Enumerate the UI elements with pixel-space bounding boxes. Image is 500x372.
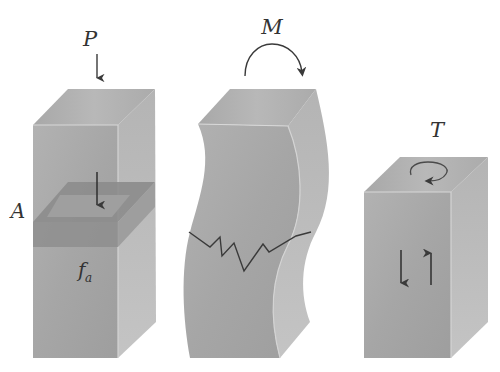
load-label-t: T bbox=[430, 118, 446, 142]
block-side-face bbox=[451, 157, 488, 358]
svg-text:a: a bbox=[85, 271, 92, 285]
torsion-panel: T bbox=[364, 118, 488, 358]
torsion-block bbox=[364, 157, 488, 358]
bending-moment-panel: M bbox=[184, 15, 329, 358]
load-types-diagram: P A f a M bbox=[0, 0, 500, 372]
load-label-m: M bbox=[260, 15, 283, 39]
axial-load-panel: P A f a bbox=[9, 27, 156, 358]
area-label-a: A bbox=[9, 199, 25, 223]
bent-block bbox=[184, 89, 329, 358]
load-label-p: P bbox=[82, 27, 98, 51]
clockwise-moment-arrow-icon bbox=[245, 44, 302, 76]
block-front-face bbox=[364, 192, 451, 358]
